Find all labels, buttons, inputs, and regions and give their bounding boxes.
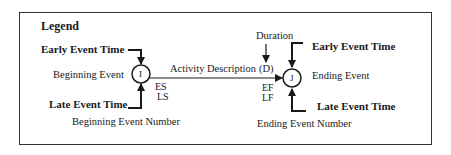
start-late-time-arrow-icon	[128, 84, 141, 108]
end-late-time-arrow-icon	[292, 89, 306, 111]
start-early-time-arrow-icon	[128, 50, 141, 64]
end-node-id: J	[290, 74, 294, 83]
end-early-time-arrow-icon	[292, 43, 303, 67]
start-node-id: I	[139, 70, 142, 79]
diagram-lines	[0, 0, 451, 155]
